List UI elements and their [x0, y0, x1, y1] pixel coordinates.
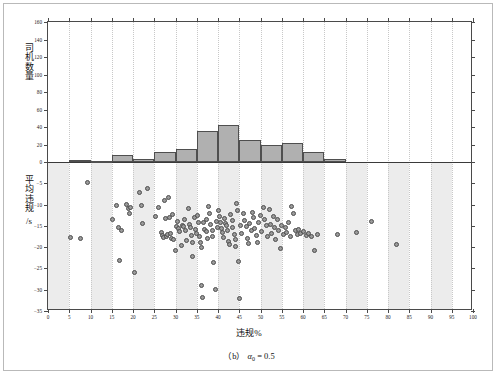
x-tick-top	[388, 18, 389, 22]
x-tick-top	[133, 18, 134, 22]
scatter-point	[269, 231, 274, 236]
x-tick-label: 50	[258, 314, 263, 320]
x-tick-top	[282, 18, 283, 22]
x-tick-label: 20	[130, 314, 135, 320]
y-tick-top-right	[471, 110, 475, 111]
scatter-point	[145, 186, 150, 191]
x-tick-label: 60	[300, 314, 305, 320]
y-tick-label-bottom: −30	[34, 287, 42, 293]
scatter-point	[208, 222, 213, 227]
scatter-point	[117, 258, 122, 263]
scatter-point	[78, 236, 83, 241]
x-tick-top	[48, 18, 49, 22]
scatter-point	[137, 190, 142, 195]
scatter-point	[216, 208, 221, 213]
y-tick-top	[44, 92, 48, 93]
scatter-point	[261, 205, 266, 210]
x-tick-label: 0	[47, 314, 50, 320]
y-tick-top-right	[471, 145, 475, 146]
scatter-point	[177, 229, 182, 234]
y-tick-label-bottom: −20	[34, 244, 42, 250]
x-tick-top	[261, 18, 262, 22]
y-tick-top	[44, 75, 48, 76]
x-tick-label: 45	[237, 314, 242, 320]
scatter-point	[218, 220, 223, 225]
y-tick-top-right	[471, 57, 475, 58]
x-tick-label: 80	[385, 314, 390, 320]
y-tick-top-right	[471, 40, 475, 41]
scatter-point	[184, 238, 189, 243]
x-tick-label: 5	[68, 314, 71, 320]
y-tick-top	[44, 40, 48, 41]
x-tick	[154, 309, 155, 313]
y-tick-label-bottom: −15	[34, 223, 42, 229]
scatter-point	[259, 229, 264, 234]
x-tick-label: 40	[215, 314, 220, 320]
scatter-point	[110, 217, 115, 222]
x-tick	[367, 309, 368, 313]
scatter-point	[170, 212, 175, 217]
y-tick-label-bottom: −35	[34, 308, 42, 314]
x-tick-label: 100	[469, 314, 477, 320]
scatter-point	[166, 195, 171, 200]
y-tick-label-top: 80	[37, 89, 42, 95]
y-tick-bottom-right	[471, 183, 475, 184]
x-tick	[48, 309, 49, 313]
scatter-point	[252, 226, 257, 231]
scatter-point	[179, 243, 184, 248]
scatter-point	[228, 212, 233, 217]
y-tick-bottom-right	[471, 205, 475, 206]
scatter-point	[173, 248, 178, 253]
x-axis-title: 违规%	[0, 326, 498, 339]
scatter-point	[156, 205, 161, 210]
scatter-point	[286, 220, 291, 225]
x-tick-top	[239, 18, 240, 22]
y-tick-bottom	[44, 226, 48, 227]
scatter-point	[128, 205, 133, 210]
scatter-point	[200, 295, 205, 300]
x-tick-top	[431, 18, 432, 22]
y-tick-label-top: 120	[34, 54, 42, 60]
y-tick-top	[44, 145, 48, 146]
x-tick	[324, 309, 325, 313]
x-tick-top	[409, 18, 410, 22]
x-tick-top	[69, 18, 70, 22]
x-tick-label: 90	[428, 314, 433, 320]
plot-area: 020406080100120140160−5−10−15−20−25−30−3…	[47, 21, 472, 310]
x-tick-top	[176, 18, 177, 22]
scatter-point	[85, 180, 90, 185]
scatter-point	[233, 237, 238, 242]
x-tick	[346, 309, 347, 313]
scatter-point	[171, 237, 176, 242]
scatter-point	[211, 260, 216, 265]
scatter-point	[182, 217, 187, 222]
x-tick-label: 75	[364, 314, 369, 320]
scatter-point	[273, 237, 278, 242]
y-tick-bottom-right	[471, 247, 475, 248]
y-tick-bottom-right	[471, 268, 475, 269]
scatter-point	[255, 240, 260, 245]
scatter-point	[221, 235, 226, 240]
scatter-point	[119, 228, 124, 233]
scatter-point	[235, 208, 240, 213]
scatter-point	[238, 223, 243, 228]
x-tick-label: 15	[109, 314, 114, 320]
x-tick	[197, 309, 198, 313]
x-tick-label: 95	[449, 314, 454, 320]
x-tick-label: 55	[279, 314, 284, 320]
scatter-point	[225, 228, 230, 233]
y-tick-top-right	[471, 22, 475, 23]
x-tick-top	[197, 18, 198, 22]
scatter-point	[206, 204, 211, 209]
x-tick	[91, 309, 92, 313]
y-tick-top	[44, 127, 48, 128]
y-tick-bottom	[44, 205, 48, 206]
scatter-point	[227, 242, 232, 247]
x-tick	[431, 309, 432, 313]
scatter-point	[186, 206, 191, 211]
scatter-point	[233, 244, 238, 249]
x-tick-label: 30	[173, 314, 178, 320]
y-tick-top-right	[471, 75, 475, 76]
y-tick-label-top: 40	[37, 124, 42, 130]
x-tick-top	[473, 18, 474, 22]
